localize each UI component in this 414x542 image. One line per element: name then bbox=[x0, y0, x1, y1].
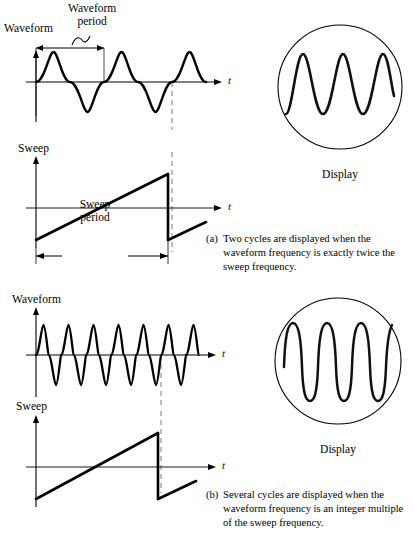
waveform-plot-a: t bbox=[0, 30, 260, 130]
waveform-axis-label-b: Waveform bbox=[12, 293, 61, 305]
caption-b-text: Several cycles are displayed when the wa… bbox=[223, 488, 408, 529]
oscilloscope-sweep-figure: Waveform Waveform period bbox=[0, 0, 414, 542]
caption-a-letter: (a) bbox=[206, 232, 223, 246]
waveform-period-line1: Waveform bbox=[68, 2, 116, 14]
caption-b: (b) Several cycles are displayed when th… bbox=[206, 488, 408, 529]
caption-b-letter: (b) bbox=[206, 488, 223, 502]
panel-a: Waveform Waveform period bbox=[0, 0, 414, 285]
display-a: Display bbox=[272, 22, 408, 182]
caption-a: (a) Two cycles are displayed when the wa… bbox=[206, 232, 406, 273]
waveform-t-axis-label-a: t bbox=[228, 74, 231, 86]
sweep-period-label: Sweep period bbox=[64, 198, 126, 224]
sweep-t-axis-label-a: t bbox=[228, 200, 231, 212]
sweep-period-line1: Sweep bbox=[80, 198, 111, 210]
waveform-period-label: Waveform period bbox=[68, 2, 116, 28]
caption-a-text: Two cycles are displayed when the wavefo… bbox=[223, 232, 406, 273]
waveform-period-line2: period bbox=[77, 15, 106, 27]
sweep-period-line2: period bbox=[80, 211, 109, 223]
waveform-plot-b: t bbox=[0, 305, 260, 405]
waveform-t-axis-label-b: t bbox=[222, 347, 225, 359]
sweep-t-axis-label-b: t bbox=[222, 459, 225, 471]
display-b: Display bbox=[268, 295, 408, 455]
display-label-b: Display bbox=[268, 443, 408, 455]
panel-b: Waveform t Sweep bbox=[0, 285, 414, 542]
display-label-a: Display bbox=[272, 168, 408, 180]
